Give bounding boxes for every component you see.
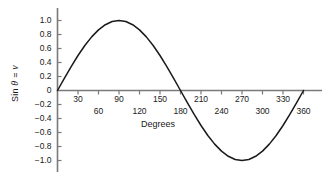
x-tick-label: 90 [108, 94, 130, 104]
y-tick-label: 0.6 [26, 43, 52, 53]
x-tick-label: 240 [211, 106, 233, 116]
x-tick-label: 180 [170, 106, 192, 116]
y-tick-label: −0.2 [26, 99, 52, 109]
x-tick-label: 300 [252, 106, 274, 116]
y-tick-label: −0.8 [26, 141, 52, 151]
x-tick-label: 360 [293, 106, 315, 116]
y-tick-label: 0 [26, 85, 52, 95]
x-tick-label: 150 [149, 94, 171, 104]
x-tick-label: 120 [129, 106, 151, 116]
sine-wave-chart: Sin θ = v 1.00.80.60.40.20−0.2−0.4−0.6−0… [0, 0, 328, 176]
y-tick-label: 0.8 [26, 29, 52, 39]
x-tick-label: 30 [67, 94, 89, 104]
y-tick-label: −1.0 [26, 155, 52, 165]
y-tick-label: 1.0 [26, 15, 52, 25]
y-tick-label: 0.4 [26, 57, 52, 67]
y-tick-label: −0.4 [26, 113, 52, 123]
x-tick-label: 60 [88, 106, 110, 116]
y-tick-label: 0.2 [26, 71, 52, 81]
x-tick-label: 270 [231, 94, 253, 104]
x-axis-title: Degrees [123, 119, 193, 129]
y-tick-label: −0.6 [26, 127, 52, 137]
x-tick-label: 210 [190, 94, 212, 104]
x-tick-label: 330 [272, 94, 294, 104]
